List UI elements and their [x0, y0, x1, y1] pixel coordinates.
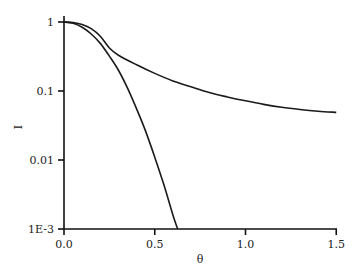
- x-axis-label: θ: [197, 253, 204, 266]
- upper-curve-line: [64, 22, 336, 112]
- x-tick-label: 0.0: [55, 238, 73, 251]
- lower-curve-line: [64, 22, 178, 229]
- y-axis-label: I: [12, 125, 25, 129]
- y-tick-label: 1: [47, 16, 54, 29]
- y-tick-label: 0.1: [37, 85, 55, 98]
- y-tick-label: 1E-3: [28, 223, 54, 236]
- x-axis: 0.00.51.01.5: [55, 229, 345, 251]
- x-tick-label: 1.0: [237, 238, 255, 251]
- line-chart: 10.10.011E-3 0.00.51.01.5 I θ: [0, 0, 360, 276]
- y-axis: 10.10.011E-3: [28, 16, 64, 236]
- x-tick-label: 1.5: [328, 238, 346, 251]
- y-tick-label: 0.01: [30, 154, 55, 167]
- x-tick-label: 0.5: [146, 238, 164, 251]
- plot-area: [64, 22, 336, 229]
